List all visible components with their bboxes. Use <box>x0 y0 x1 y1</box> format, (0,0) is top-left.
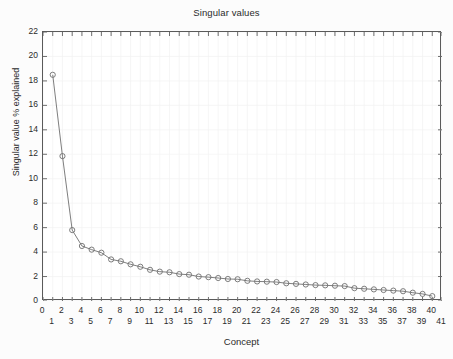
y-tick-label: 20 <box>4 50 38 60</box>
x-tick-label: 40 <box>420 305 442 315</box>
x-tick-label: 41 <box>430 316 452 326</box>
chart-figure: Singular values Singular value % explain… <box>0 0 453 359</box>
y-tick-label: 22 <box>4 26 38 36</box>
y-tick-label: 2 <box>4 271 38 281</box>
y-tick-label: 10 <box>4 173 38 183</box>
plot-area <box>42 31 441 300</box>
y-tick-label: 6 <box>4 222 38 232</box>
y-tick-label: 8 <box>4 197 38 207</box>
x-axis-label: Concept <box>42 336 441 347</box>
y-tick-label: 4 <box>4 246 38 256</box>
chart-title: Singular values <box>0 7 453 18</box>
x-axis-tick-labels: 0123456789101112131415161718192021222324… <box>42 300 441 334</box>
series-line <box>53 75 433 296</box>
y-tick-label: 12 <box>4 148 38 158</box>
y-tick-label: 18 <box>4 75 38 85</box>
y-tick-label: 16 <box>4 99 38 109</box>
y-tick-label: 0 <box>4 295 38 305</box>
data-series-svg <box>43 32 442 301</box>
y-tick-label: 14 <box>4 124 38 134</box>
y-axis-tick-labels: 0246810121416182022 <box>0 31 38 300</box>
